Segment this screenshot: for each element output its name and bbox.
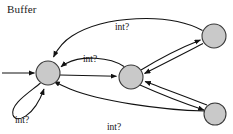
- edge-self-loop-left: [13, 83, 44, 119]
- diagram-canvas: Buffer: [0, 0, 233, 134]
- automaton-graph: int? int? int? int?: [0, 0, 233, 134]
- edge-label-bottom: int?: [107, 122, 121, 132]
- edge-label-top: int?: [115, 22, 129, 32]
- edge-bottom-right-to-middle: [145, 82, 207, 106]
- edge-label-upper-middle: int?: [83, 54, 97, 64]
- edge-left-to-middle-straight: [60, 75, 117, 76]
- state-node-top-right[interactable]: [202, 24, 226, 48]
- edge-label-self-loop: int?: [15, 115, 29, 125]
- edge-middle-to-top-right: [141, 40, 201, 70]
- state-node-middle[interactable]: [119, 65, 143, 89]
- state-node-bottom-right[interactable]: [204, 103, 226, 125]
- state-node-left[interactable]: [36, 61, 60, 85]
- edge-top-right-to-middle: [145, 44, 204, 74]
